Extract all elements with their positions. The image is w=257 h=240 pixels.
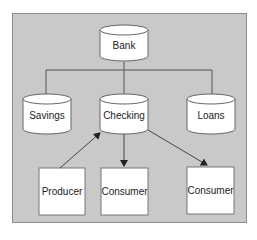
arrows — [60, 130, 207, 168]
consumer-2-label: Consumer — [187, 185, 234, 197]
arrow-producer-to-checking — [60, 133, 100, 168]
loans-label: Loans — [187, 110, 235, 122]
arrow-checking-to-consumer-2 — [148, 130, 207, 165]
bank-label: Bank — [100, 40, 148, 52]
savings-label: Savings — [23, 110, 71, 122]
consumer-1-label: Consumer — [101, 186, 148, 198]
producer-label: Producer — [39, 186, 85, 198]
checking-label: Checking — [100, 110, 148, 122]
tree-connector — [46, 62, 212, 97]
